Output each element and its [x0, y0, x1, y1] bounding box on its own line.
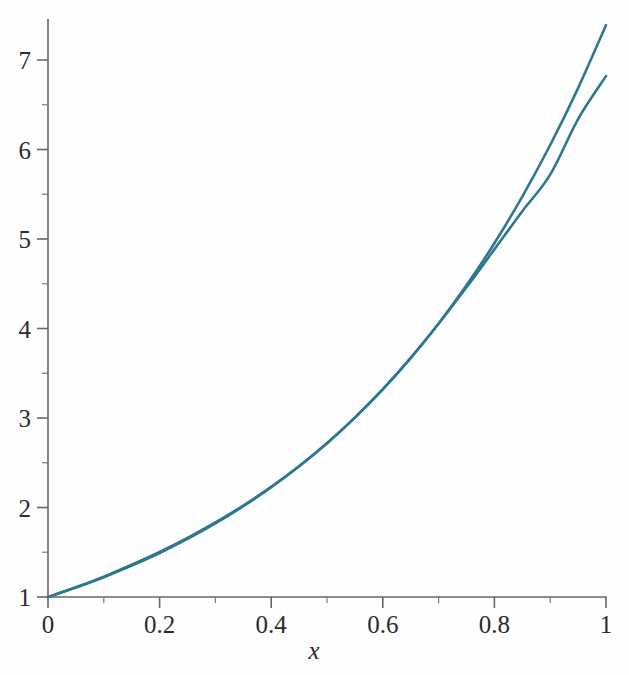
x-tick-label: 0.6 — [367, 611, 398, 638]
x-tick-label: 0.4 — [256, 611, 288, 638]
y-tick-label: 2 — [19, 495, 32, 522]
plot-area: 123456700.20.40.60.81 x — [0, 0, 629, 675]
x-tick-label: 0.2 — [144, 611, 175, 638]
x-tick-label: 0 — [42, 611, 55, 638]
y-tick-label: 4 — [19, 316, 32, 343]
y-tick-label: 7 — [19, 47, 32, 74]
x-axis-title: x — [307, 637, 319, 664]
chart-figure: 123456700.20.40.60.81 x — [0, 0, 629, 675]
x-tick-label: 0.8 — [479, 611, 510, 638]
y-tick-label: 5 — [19, 226, 32, 253]
y-tick-label: 1 — [19, 584, 32, 611]
x-tick-label: 1 — [600, 611, 613, 638]
plot-background — [0, 0, 629, 675]
y-tick-label: 6 — [19, 137, 32, 164]
y-tick-label: 3 — [19, 405, 32, 432]
